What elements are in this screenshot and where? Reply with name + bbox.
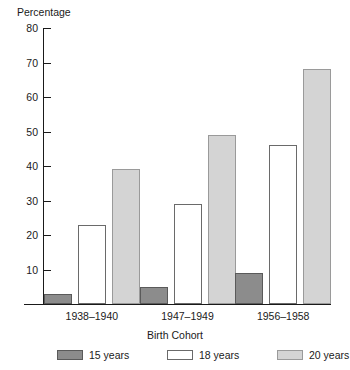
legend-item-20-years[interactable]: 20 years	[277, 349, 349, 361]
x-axis-line	[24, 304, 331, 305]
chart-legend: 15 years18 years20 years	[0, 349, 350, 365]
y-axis-tick-label: 40	[12, 161, 38, 172]
bar-20-years-1938–1940	[112, 169, 140, 304]
plot-bars	[44, 28, 331, 304]
legend-swatch-icon	[57, 350, 83, 360]
y-axis-title: Percentage	[17, 6, 71, 18]
x-axis-title: Birth Cohort	[0, 329, 350, 341]
y-axis-tick-label: 10	[12, 265, 38, 276]
bar-18-years-1956–1958	[269, 145, 297, 304]
y-axis-tick-label: 50	[12, 127, 38, 138]
legend-item-18-years[interactable]: 18 years	[167, 349, 239, 361]
legend-swatch-icon	[167, 350, 193, 360]
bar-15-years-1956–1958	[235, 273, 263, 304]
y-axis-tick-label: 60	[12, 92, 38, 103]
legend-item-15-years[interactable]: 15 years	[57, 349, 129, 361]
bar-18-years-1938–1940	[78, 225, 106, 304]
bar-15-years-1947–1949	[140, 287, 168, 304]
y-axis-tick-label: 80	[12, 23, 38, 34]
y-axis-tick-label: 30	[12, 196, 38, 207]
x-axis-label-1947–1949: 1947–1949	[140, 310, 236, 322]
bar-15-years-1938–1940	[44, 294, 72, 304]
legend-label: 15 years	[89, 349, 129, 361]
bar-18-years-1947–1949	[174, 204, 202, 304]
x-axis-label-1938–1940: 1938–1940	[44, 310, 140, 322]
legend-swatch-icon	[277, 350, 303, 360]
legend-label: 18 years	[199, 349, 239, 361]
bar-20-years-1956–1958	[303, 69, 331, 304]
bar-chart: Percentage 1020304050607080 1938–1940194…	[0, 0, 350, 370]
x-axis-label-1956–1958: 1956–1958	[235, 310, 331, 322]
y-axis-tick-label: 70	[12, 58, 38, 69]
y-axis-tick-label: 20	[12, 230, 38, 241]
legend-label: 20 years	[309, 349, 349, 361]
bar-20-years-1947–1949	[208, 135, 236, 304]
